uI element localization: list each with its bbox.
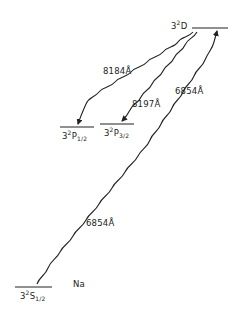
element-label: Na — [73, 279, 85, 289]
transition-8184-arrow — [78, 32, 193, 124]
level-label-3P-three-halves: 32P3/2 — [104, 128, 129, 138]
level-label-3D: 32D — [171, 21, 187, 31]
level-label-3P-half: 32P1/2 — [62, 131, 87, 141]
level-label-3S-half: 32S1/2 — [20, 291, 46, 301]
wavelength-label-6854-lower: 6854Å — [86, 218, 114, 228]
wavelength-label-8184: 8184Å — [103, 66, 131, 76]
wavelength-label-6854-upper: 6854Å — [175, 86, 203, 96]
energy-level-diagram — [0, 0, 241, 320]
wavelength-label-8197: 8197Å — [132, 99, 160, 109]
